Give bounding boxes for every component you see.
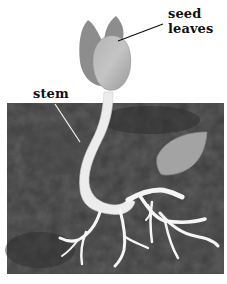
front-seed-leaf <box>93 36 131 91</box>
seedling-diagram: seed leaves stem <box>0 0 227 284</box>
seed-leaves-label: seed leaves <box>168 6 213 36</box>
soil <box>5 103 224 274</box>
seed-leaves <box>79 16 130 90</box>
seed-leaves-pointer-line <box>118 24 163 41</box>
seed-leaves-label-line2: leaves <box>168 21 213 36</box>
stem-label: stem <box>33 86 69 101</box>
seed-leaves-label-line1: seed <box>168 6 213 21</box>
seedling-illustration <box>0 0 227 284</box>
